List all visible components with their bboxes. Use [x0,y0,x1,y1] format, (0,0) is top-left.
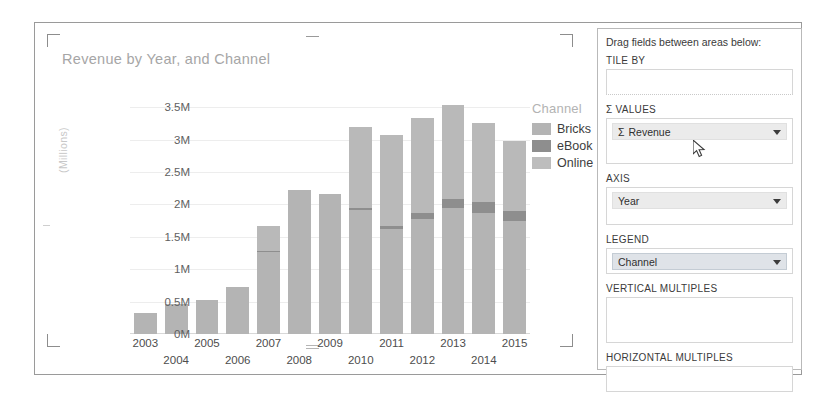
plot-area [130,91,530,334]
bar-segment-bricks[interactable] [288,190,311,335]
x-axis-label: 2004 [163,354,189,366]
field-well-panel: Drag fields between areas below: TILE BY… [597,28,802,370]
bar-segment-bricks[interactable] [411,219,434,334]
bar-column[interactable] [257,226,280,334]
bar-segment-bricks[interactable] [319,194,342,334]
field-drop-zone[interactable] [606,366,793,392]
sigma-icon: Σ [618,126,625,138]
resize-handle-bottom-right[interactable] [560,334,573,347]
bar-segment-bricks[interactable] [349,210,372,334]
bar-segment-online[interactable] [380,135,403,226]
bar-column[interactable] [411,118,434,334]
x-axis-label: 2010 [348,354,374,366]
field-pill[interactable]: Channel [612,253,787,270]
resize-handle-top-center[interactable] [306,36,319,37]
bar-segment-ebook[interactable] [503,211,526,221]
gridline [130,172,530,173]
chart-title: Revenue by Year, and Channel [62,51,270,67]
field-drop-zone[interactable] [606,297,793,343]
y-axis-label: 3M [174,134,190,146]
chevron-down-icon[interactable] [773,199,781,204]
bar-column[interactable] [349,127,372,334]
field-pill-label: Revenue [629,126,671,138]
x-axis-label: 2015 [502,337,528,349]
legend-item[interactable]: Bricks [532,122,593,136]
field-section-label-tile-by: TILE BY [606,55,793,66]
y-axis-label: 3.5M [164,101,190,113]
chevron-down-icon[interactable] [773,260,781,265]
y-axis-label: 2M [174,198,190,210]
bar-column[interactable] [319,194,342,334]
field-drop-zone[interactable]: Channel [606,248,793,274]
bar-column[interactable] [472,123,495,334]
legend-label: eBook [557,139,592,153]
x-axis-label: 2013 [440,337,466,349]
legend-label: Bricks [557,122,591,136]
legend-item[interactable]: Online [532,156,593,170]
field-panel-header: Drag fields between areas below: [606,36,793,48]
x-axis-label: 2003 [133,337,159,349]
field-drop-zone[interactable] [606,69,793,95]
legend-label: Online [557,156,593,170]
legend-swatch-icon [532,123,551,135]
x-axis-label: 2007 [256,337,282,349]
field-section-label-vertical-multiples: VERTICAL MULTIPLES [606,283,793,294]
bar-segment-bricks[interactable] [134,313,157,334]
bar-segment-ebook[interactable] [472,202,495,212]
y-axis-label: 0.5M [164,296,190,308]
bar-segment-bricks[interactable] [196,300,219,334]
bar-column[interactable] [288,190,311,335]
bar-segment-online[interactable] [411,118,434,213]
bar-segment-bricks[interactable] [226,287,249,334]
x-axis-label: 2014 [471,354,497,366]
y-axis-label: 2.5M [164,166,190,178]
bar-column[interactable] [503,141,526,334]
bar-column[interactable] [134,313,157,334]
y-axis-label: 0M [174,328,190,340]
chart-pane[interactable]: Revenue by Year, and Channel (Millions) … [35,23,595,374]
field-pill-label: Channel [618,256,657,268]
bar-segment-bricks[interactable] [442,208,465,334]
resize-handle-top-left[interactable] [47,34,60,47]
bar-column[interactable] [442,105,465,334]
bar-segment-online[interactable] [503,141,526,211]
bar-segment-online[interactable] [472,123,495,202]
field-section-label-legend: LEGEND [606,234,793,245]
field-pill[interactable]: Year [612,192,787,209]
legend-title: Channel [532,101,593,116]
field-section-label-axis: AXIS [606,173,793,184]
bar-segment-online[interactable] [442,105,465,200]
y-axis-label: 1.5M [164,231,190,243]
y-axis-title: (Millions) [57,127,69,173]
y-axis-label: 1M [174,263,190,275]
bar-segment-ebook[interactable] [442,199,465,208]
x-axis-label: 2006 [225,354,251,366]
bar-segment-bricks[interactable] [380,229,403,334]
field-pill[interactable]: ΣRevenue [612,123,787,140]
field-section-label-horizontal-multiples: HORIZONTAL MULTIPLES [606,352,793,363]
bar-segment-online[interactable] [349,127,372,208]
bar-segment-bricks[interactable] [257,252,280,334]
resize-handle-bottom-left[interactable] [47,334,60,347]
bar-segment-bricks[interactable] [472,213,495,334]
bar-column[interactable] [196,300,219,334]
x-axis-label: 2011 [379,337,404,349]
legend-item[interactable]: eBook [532,139,593,153]
resize-handle-top-right[interactable] [560,34,573,47]
field-section-label-values: Σ VALUES [606,104,793,115]
legend-swatch-icon [532,157,551,169]
field-drop-zone[interactable]: Year [606,187,793,225]
mouse-cursor-icon [693,140,706,158]
bar-segment-bricks[interactable] [503,221,526,334]
x-axis-label: 2012 [410,354,436,366]
x-axis-label: 2008 [286,354,312,366]
bar-segment-online[interactable] [257,226,280,251]
bar-column[interactable] [226,287,249,334]
chevron-down-icon[interactable] [773,130,781,135]
gridline [130,140,530,141]
field-pill-label: Year [618,195,639,207]
y-axis-tick-mark [43,225,50,226]
bar-column[interactable] [380,135,403,334]
legend-swatch-icon [532,140,551,152]
chart-legend: Channel BrickseBookOnline [532,101,593,173]
